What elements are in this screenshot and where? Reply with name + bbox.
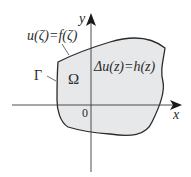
boundary-condition-leader — [62, 44, 69, 55]
boundary-gamma-label: Γ — [34, 69, 42, 83]
diagram: y x 0 u(ζ)=f(ζ) Γ Ω Δu(z)=h(z) — [0, 0, 191, 177]
equation-label: Δu(z)=h(z) — [94, 60, 155, 74]
region-omega-label: Ω — [68, 72, 79, 87]
diagram-canvas — [0, 0, 191, 177]
origin-label: 0 — [82, 107, 88, 119]
boundary-condition-label: u(ζ)=f(ζ) — [27, 29, 77, 43]
y-axis-label: y — [79, 12, 85, 26]
gamma-leader — [47, 76, 56, 81]
x-axis-label: x — [173, 108, 179, 122]
